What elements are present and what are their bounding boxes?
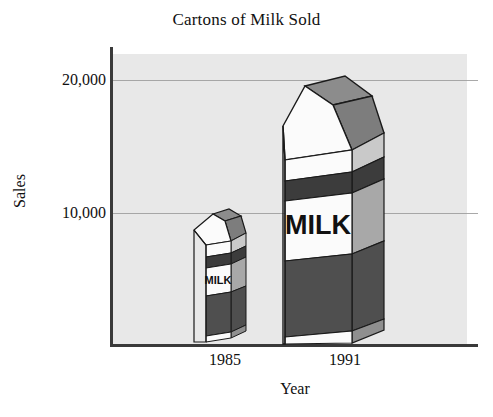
chart-canvas: Cartons of Milk Sold Sales 20,000 10,000… bbox=[0, 0, 493, 417]
carton-label-1985: MILK bbox=[205, 274, 232, 286]
carton-side-body-1985 bbox=[231, 286, 246, 332]
x-axis-title: Year bbox=[112, 380, 478, 398]
carton-front-body-1991 bbox=[285, 254, 352, 337]
bar-carton-1991: MILK bbox=[283, 76, 384, 344]
bar-carton-1985: MILK bbox=[194, 209, 246, 342]
carton-front-body-1985 bbox=[206, 292, 231, 336]
carton-left-face-1985 bbox=[194, 230, 206, 342]
carton-side-body-1991 bbox=[352, 241, 384, 331]
carton-label-1991: MILK bbox=[285, 210, 351, 240]
